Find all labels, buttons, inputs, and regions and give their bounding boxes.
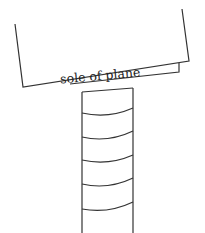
board-edge <box>82 88 133 233</box>
plane-label: sole of plane <box>60 65 141 87</box>
growth-ring <box>82 155 133 162</box>
board-top-edge <box>82 88 133 92</box>
diagram-canvas: sole of plane <box>0 0 205 233</box>
plane-sole: sole of plane <box>15 9 189 87</box>
growth-ring <box>82 202 133 210</box>
growth-ring <box>82 178 133 186</box>
growth-ring <box>82 131 133 139</box>
growth-ring <box>82 108 133 115</box>
